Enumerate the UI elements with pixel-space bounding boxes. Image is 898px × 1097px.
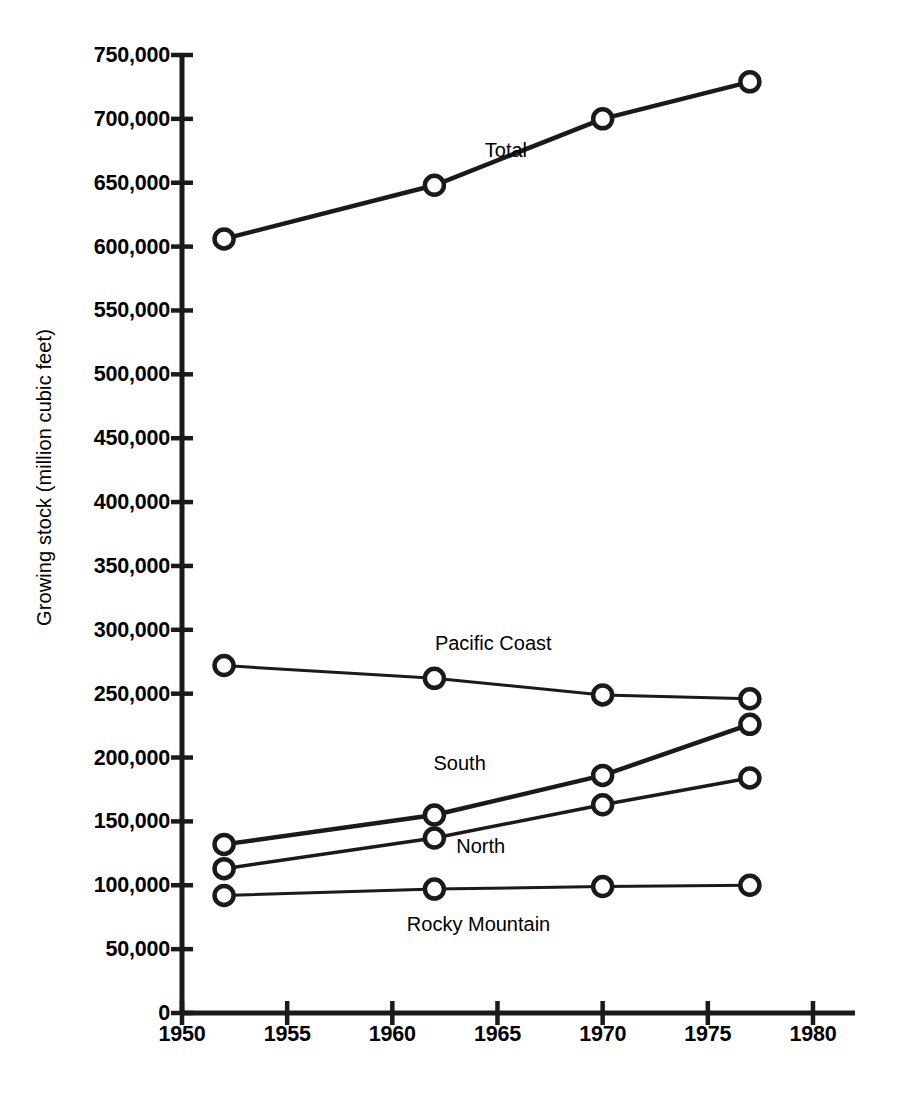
axes: [182, 55, 855, 1013]
series-rocky-mountain: [215, 876, 760, 905]
series-north: [215, 768, 760, 878]
series-south: [215, 715, 760, 854]
series-pacific-coast: [215, 656, 760, 708]
series-label-pacific-coast: Pacific Coast: [435, 631, 552, 654]
series-label-south: South: [433, 751, 485, 774]
chart-figure: Growing stock (million cubic feet) 050,0…: [0, 0, 898, 1097]
series-label-rocky-mountain: Rocky Mountain: [407, 912, 550, 935]
series-label-total: Total: [485, 138, 527, 161]
series-label-north: North: [456, 834, 505, 857]
